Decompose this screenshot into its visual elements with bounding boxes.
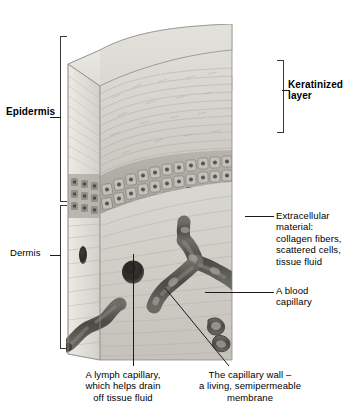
label-epidermis: Epidermis (6, 106, 55, 117)
label-keratinized-layer: Keratinized layer (288, 79, 348, 102)
lymph-pore-shadow (124, 262, 136, 274)
keratinized-bracket (277, 60, 284, 133)
label-capillary-wall: The capillary wall – a living, semiperme… (180, 369, 320, 403)
dermis-bracket (60, 205, 67, 349)
label-extracellular-material: Extracellular material: collagen fibers,… (276, 210, 350, 267)
label-blood-capillary: A blood capillary (276, 285, 346, 308)
label-lymph-capillary: A lymph capillary, which helps drain off… (64, 369, 182, 403)
lymph-capillary-leader (133, 254, 134, 366)
dermis-leader (50, 255, 61, 256)
ecm-leader (245, 216, 274, 217)
cut-face-vessel-oval (79, 246, 87, 264)
epidermis-bracket (60, 36, 67, 202)
figure-canvas: Epidermis Keratinized layer Dermis Extra… (0, 0, 350, 413)
capillary-wall-leader (160, 286, 270, 368)
label-dermis: Dermis (10, 247, 41, 258)
